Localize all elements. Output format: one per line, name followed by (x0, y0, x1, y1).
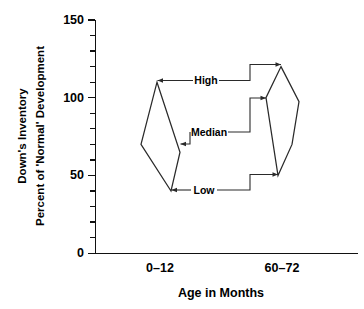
x-axis-title: Age in Months (178, 286, 264, 300)
data-shape-60-72-months (266, 67, 299, 176)
annotation-label-low: Low (194, 184, 216, 196)
annotation-label-median: Median (191, 126, 227, 138)
annotation-median: Median (181, 96, 267, 146)
chart-figure: 150 100 50 0 High Median (0, 0, 364, 309)
y-tick-label-100: 100 (63, 91, 84, 105)
y-axis-title-line-2: Percent of 'Normal' Development (34, 46, 46, 226)
data-shape-0-12-months (141, 82, 180, 191)
x-tick-label-0-12: 0–12 (146, 261, 174, 275)
annotation-high: High (158, 62, 282, 86)
annotation-label-high: High (194, 74, 217, 86)
chart-canvas: 150 100 50 0 High Median (0, 0, 364, 309)
y-tick-label-50: 50 (70, 168, 84, 182)
y-axis-title-line-1: Down's Inventory (16, 88, 28, 184)
y-tick-marks (88, 20, 95, 253)
x-tick-label-60-72: 60–72 (265, 261, 300, 275)
y-tick-label-150: 150 (63, 13, 84, 27)
annotation-low: Low (172, 172, 279, 195)
y-tick-label-0: 0 (77, 246, 84, 260)
